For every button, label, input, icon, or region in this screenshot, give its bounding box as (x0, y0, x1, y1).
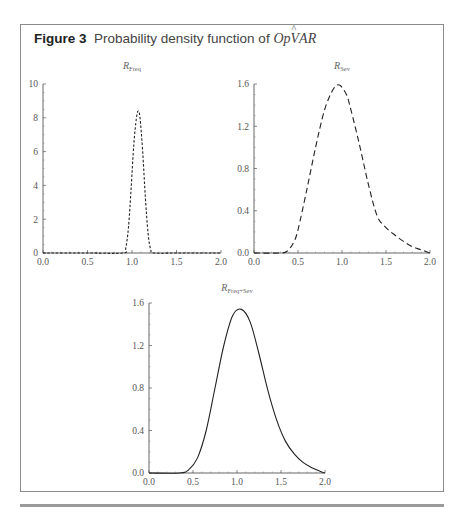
x-tick-label: 2.0 (319, 477, 331, 487)
chart-r-sev: RSev0.00.40.81.21.60.00.51.01.52.0 (237, 60, 436, 267)
density-curve (254, 85, 430, 253)
density-curve (43, 111, 221, 253)
x-tick-label: 1.0 (336, 257, 348, 267)
x-tick-label: 0.0 (248, 257, 260, 267)
y-tick-label: 0.8 (132, 383, 144, 393)
charts-canvas: RFreq02468100.00.51.01.52.0RSev0.00.40.8… (0, 0, 464, 511)
x-tick-label: 1.0 (126, 257, 138, 267)
y-tick-label: 0.4 (132, 426, 144, 436)
chart-r-freq-sev: RFreq+Sev0.00.40.81.21.60.00.51.01.52.0 (132, 282, 331, 487)
y-tick-label: 1.2 (237, 122, 249, 132)
x-tick-label: 1.5 (380, 257, 392, 267)
y-tick-label: 10 (29, 79, 39, 89)
y-tick-label: 6 (33, 147, 38, 157)
density-curve (149, 309, 325, 473)
y-tick-label: 8 (33, 113, 38, 123)
y-tick-label: 1.2 (132, 341, 144, 351)
x-tick-label: 2.0 (424, 257, 436, 267)
chart-subtitle: RFreq+Sev (220, 282, 253, 294)
y-tick-label: 0.8 (237, 164, 249, 174)
y-tick-label: 1.6 (132, 298, 144, 308)
x-tick-label: 0.5 (82, 257, 94, 267)
y-tick-label: 0.4 (237, 206, 249, 216)
chart-subtitle: RSev (333, 60, 351, 72)
x-tick-label: 2.0 (215, 257, 227, 267)
chart-subtitle: RFreq (122, 60, 142, 72)
x-tick-label: 0.0 (37, 257, 49, 267)
y-tick-label: 4 (33, 181, 38, 191)
y-tick-label: 1.6 (237, 79, 249, 89)
x-tick-label: 0.5 (292, 257, 304, 267)
chart-r-freq: RFreq02468100.00.51.01.52.0 (29, 60, 228, 267)
y-tick-label: 2 (33, 215, 38, 225)
x-tick-label: 1.5 (171, 257, 183, 267)
x-tick-label: 1.0 (231, 477, 243, 487)
x-tick-label: 0.0 (143, 477, 155, 487)
x-tick-label: 1.5 (275, 477, 287, 487)
x-tick-label: 0.5 (187, 477, 199, 487)
